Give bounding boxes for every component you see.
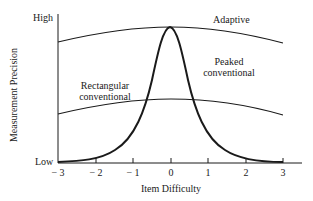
annotation-peaked-line2: conventional	[194, 67, 264, 78]
annotation-rectangular-conventional: Rectangular conventional	[70, 80, 140, 102]
x-tick-label: − 3	[43, 167, 73, 178]
adaptive-curve	[58, 27, 283, 43]
x-tick-label: 2	[231, 167, 261, 178]
annotation-rect-line1: Rectangular	[70, 80, 140, 91]
y-high-label: High	[33, 12, 53, 23]
annotation-rect-line2: conventional	[70, 91, 140, 102]
x-tick-label: 0	[156, 167, 186, 178]
x-tick-label: 1	[193, 167, 223, 178]
y-axis-title: Measurement Precision	[8, 48, 19, 142]
x-tick-label: − 2	[81, 167, 111, 178]
x-tick-label: 3	[268, 167, 298, 178]
annotation-peaked-conventional: Peaked conventional	[194, 56, 264, 78]
x-tick-label: − 1	[118, 167, 148, 178]
annotation-adaptive: Adaptive	[213, 14, 250, 25]
annotation-peaked-line1: Peaked	[194, 56, 264, 67]
x-axis-title: Item Difficulty	[121, 183, 221, 194]
y-low-label: Low	[35, 156, 53, 167]
